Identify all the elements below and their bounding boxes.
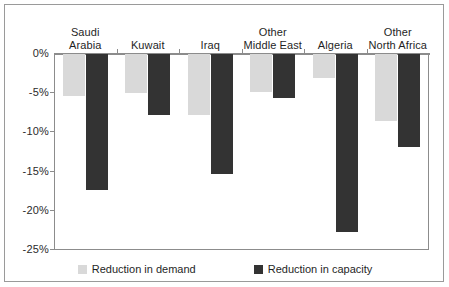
bar-demand <box>375 54 397 121</box>
y-axis-labels: 0%-5%-10%-15%-20%-25% <box>5 5 49 287</box>
category-label-line: Other <box>234 26 313 39</box>
bar-demand <box>250 54 272 92</box>
category-label-line: Other <box>359 26 438 39</box>
category-label-line: Saudi <box>46 26 125 39</box>
bar-capacity <box>211 54 233 174</box>
bar-capacity <box>273 54 295 98</box>
y-axis-tick-label: -5% <box>29 86 49 98</box>
legend-label: Reduction in capacity <box>268 263 373 275</box>
category-separator-tick <box>179 49 180 53</box>
legend-label: Reduction in demand <box>92 263 196 275</box>
bar-capacity <box>86 54 108 190</box>
bar-capacity <box>398 54 420 147</box>
bar-demand <box>313 54 335 78</box>
chart-frame: 0%-5%-10%-15%-20%-25% SaudiArabiaKuwaitI… <box>4 4 444 282</box>
bar-capacity <box>148 54 170 115</box>
legend-swatch-capacity-icon <box>254 265 263 274</box>
category-separator-tick <box>367 49 368 53</box>
plot-area <box>54 54 429 250</box>
category-separator-tick <box>242 49 243 53</box>
bar-demand <box>125 54 147 93</box>
y-axis-tick-label: -10% <box>23 125 49 137</box>
y-axis-tick-label: -20% <box>23 204 49 216</box>
category-label-line: North Africa <box>359 39 438 52</box>
category-separator-tick <box>117 49 118 53</box>
bar-demand <box>188 54 210 115</box>
y-axis-tick-label: -25% <box>23 243 49 255</box>
chart-legend: Reduction in demandReduction in capacity <box>5 263 445 275</box>
category-label-other-north-africa: OtherNorth Africa <box>359 26 438 51</box>
legend-item[interactable]: Reduction in demand <box>78 263 196 275</box>
legend-item[interactable]: Reduction in capacity <box>254 263 373 275</box>
y-axis-tick-label: -15% <box>23 165 49 177</box>
category-separator-tick <box>304 49 305 53</box>
bar-demand <box>63 54 85 96</box>
legend-swatch-demand-icon <box>78 265 87 274</box>
bar-capacity <box>336 54 358 232</box>
